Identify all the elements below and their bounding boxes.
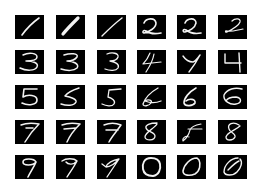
handwritten-digit-icon bbox=[15, 50, 44, 74]
handwritten-digit-icon bbox=[56, 120, 85, 144]
digit-sample-grid: 111222333444555666777888999000 bbox=[0, 0, 259, 189]
handwritten-digit-icon bbox=[218, 50, 247, 74]
digit-tile-9: 9 bbox=[56, 155, 85, 179]
digit-tile-1: 1 bbox=[97, 15, 126, 39]
digit-tile-8: 8 bbox=[137, 120, 166, 144]
digit-tile-6: 6 bbox=[218, 85, 247, 109]
handwritten-digit-icon bbox=[137, 155, 166, 179]
digit-tile-8: 8 bbox=[177, 120, 206, 144]
handwritten-digit-icon bbox=[137, 120, 166, 144]
handwritten-digit-icon bbox=[218, 85, 247, 109]
handwritten-digit-icon bbox=[97, 50, 126, 74]
digit-tile-5: 5 bbox=[97, 85, 126, 109]
digit-tile-0: 0 bbox=[218, 155, 247, 179]
handwritten-digit-icon bbox=[218, 120, 247, 144]
digit-tile-5: 5 bbox=[15, 85, 44, 109]
handwritten-digit-icon bbox=[15, 120, 44, 144]
digit-tile-0: 0 bbox=[177, 155, 206, 179]
digit-tile-0: 0 bbox=[137, 155, 166, 179]
digit-tile-7: 7 bbox=[15, 120, 44, 144]
digit-tile-7: 7 bbox=[97, 120, 126, 144]
digit-tile-1: 1 bbox=[15, 15, 44, 39]
handwritten-digit-icon bbox=[56, 50, 85, 74]
handwritten-digit-icon bbox=[177, 15, 206, 39]
handwritten-digit-icon bbox=[218, 15, 247, 39]
digit-tile-6: 6 bbox=[137, 85, 166, 109]
handwritten-digit-icon bbox=[97, 85, 126, 109]
handwritten-digit-icon bbox=[56, 85, 85, 109]
digit-tile-9: 9 bbox=[97, 155, 126, 179]
digit-tile-7: 7 bbox=[56, 120, 85, 144]
digit-tile-8: 8 bbox=[218, 120, 247, 144]
digit-tile-1: 1 bbox=[56, 15, 85, 39]
digit-tile-2: 2 bbox=[218, 15, 247, 39]
handwritten-digit-icon bbox=[177, 50, 206, 74]
handwritten-digit-icon bbox=[177, 85, 206, 109]
handwritten-digit-icon bbox=[137, 85, 166, 109]
digit-tile-4: 4 bbox=[137, 50, 166, 74]
digit-tile-3: 3 bbox=[15, 50, 44, 74]
handwritten-digit-icon bbox=[15, 15, 44, 39]
digit-tile-6: 6 bbox=[177, 85, 206, 109]
handwritten-digit-icon bbox=[177, 155, 206, 179]
handwritten-digit-icon bbox=[56, 15, 85, 39]
handwritten-digit-icon bbox=[97, 15, 126, 39]
digit-tile-2: 2 bbox=[137, 15, 166, 39]
handwritten-digit-icon bbox=[137, 15, 166, 39]
handwritten-digit-icon bbox=[15, 155, 44, 179]
digit-tile-2: 2 bbox=[177, 15, 206, 39]
digit-tile-3: 3 bbox=[56, 50, 85, 74]
digit-tile-3: 3 bbox=[97, 50, 126, 74]
handwritten-digit-icon bbox=[97, 155, 126, 179]
handwritten-digit-icon bbox=[97, 120, 126, 144]
handwritten-digit-icon bbox=[177, 120, 206, 144]
digit-tile-4: 4 bbox=[218, 50, 247, 74]
handwritten-digit-icon bbox=[56, 155, 85, 179]
digit-tile-4: 4 bbox=[177, 50, 206, 74]
digit-tile-9: 9 bbox=[15, 155, 44, 179]
handwritten-digit-icon bbox=[15, 85, 44, 109]
handwritten-digit-icon bbox=[137, 50, 166, 74]
handwritten-digit-icon bbox=[218, 155, 247, 179]
digit-tile-5: 5 bbox=[56, 85, 85, 109]
